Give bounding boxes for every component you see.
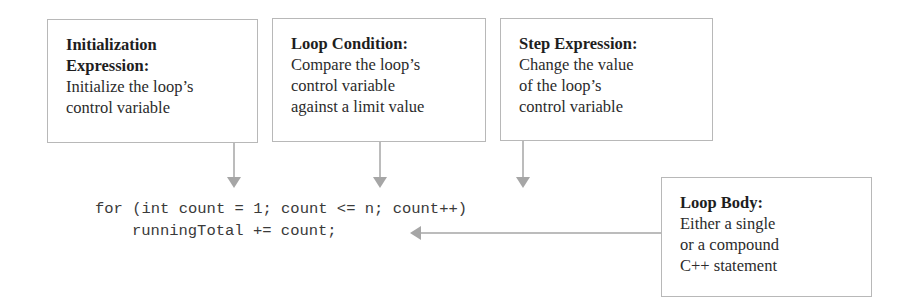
arrow-initialization [227, 142, 241, 188]
callout-description: Compare the loop’s control variable agai… [291, 54, 467, 117]
callout-title: Initialization [66, 34, 239, 55]
code-loop-body: runningTotal += count; [132, 222, 337, 241]
callout-step: Step Expression: Change the value of the… [500, 18, 713, 141]
callout-body: Loop Body: Either a single or a compound… [661, 177, 872, 297]
callout-description: Change the value of the loop’s control v… [519, 54, 694, 117]
callout-title: Expression: [66, 55, 239, 76]
callout-title: Loop Condition: [291, 33, 467, 54]
callout-condition: Loop Condition: Compare the loop’s contr… [272, 18, 486, 142]
callout-description: Initialize the loop’s control variable [66, 76, 239, 118]
callout-title: Loop Body: [680, 192, 853, 213]
callout-title: Step Expression: [519, 33, 694, 54]
arrow-condition [373, 141, 387, 188]
callout-initialization: Initialization Expression: Initialize th… [47, 19, 258, 143]
arrow-step [516, 140, 530, 188]
code-for-statement: for (int count = 1; count <= n; count++) [95, 200, 467, 219]
arrow-body [410, 226, 661, 240]
callout-description: Either a single or a compound C++ statem… [680, 213, 853, 276]
